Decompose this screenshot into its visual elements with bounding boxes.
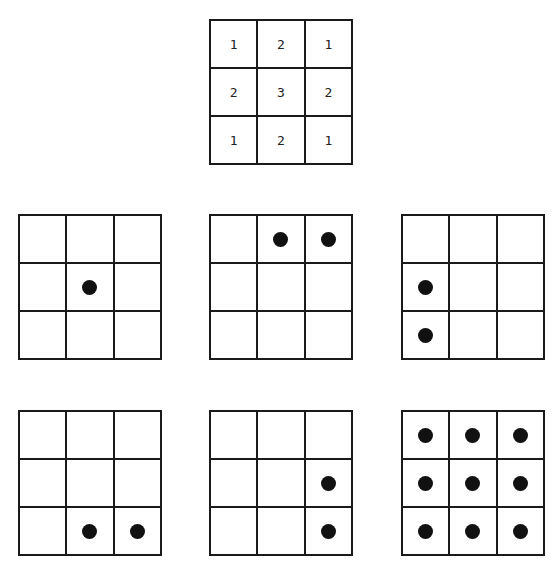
grid-cell [402, 507, 449, 555]
grid-cell [114, 215, 161, 263]
grid-cell [66, 215, 113, 263]
key-grid: 1 2 1 2 3 2 1 2 1 [209, 19, 353, 165]
grid-cell [402, 459, 449, 507]
dot-marker [418, 328, 433, 343]
grid-cell [305, 411, 352, 459]
grid-cell [402, 311, 449, 359]
grid-cell [66, 411, 113, 459]
grid-cell [66, 507, 113, 555]
grid-cell [449, 411, 496, 459]
dot-marker [130, 524, 145, 539]
grid-cell [449, 263, 496, 311]
grid-cell [19, 507, 66, 555]
key-cell: 1 [305, 116, 352, 164]
grid-cell [497, 411, 544, 459]
dot-marker [418, 524, 433, 539]
dot-marker [465, 524, 480, 539]
dot-marker [418, 428, 433, 443]
dot-marker [513, 476, 528, 491]
key-cell: 3 [257, 68, 304, 116]
pattern-grid-d [18, 410, 162, 556]
dot-marker [418, 476, 433, 491]
grid-cell [257, 507, 304, 555]
dot-marker [465, 476, 480, 491]
pattern-grid-c [401, 214, 545, 360]
grid-cell [257, 263, 304, 311]
grid-cell [210, 459, 257, 507]
dot-marker [321, 476, 336, 491]
grid-cell [210, 507, 257, 555]
grid-cell [114, 263, 161, 311]
key-cell: 2 [257, 20, 304, 68]
grid-cell [19, 215, 66, 263]
key-cell: 2 [210, 68, 257, 116]
grid-cell [449, 311, 496, 359]
grid-cell [114, 459, 161, 507]
dot-marker [513, 428, 528, 443]
grid-cell [497, 507, 544, 555]
grid-cell [449, 507, 496, 555]
grid-cell [305, 507, 352, 555]
grid-cell [114, 507, 161, 555]
pattern-grid-a [18, 214, 162, 360]
key-cell: 1 [210, 20, 257, 68]
grid-cell [497, 459, 544, 507]
grid-cell [305, 459, 352, 507]
grid-cell [19, 311, 66, 359]
grid-cell [402, 215, 449, 263]
grid-cell [305, 263, 352, 311]
grid-cell [210, 411, 257, 459]
grid-cell [497, 311, 544, 359]
dot-marker [82, 280, 97, 295]
pattern-grid-e [209, 410, 353, 556]
grid-cell [449, 459, 496, 507]
key-cell: 1 [305, 20, 352, 68]
grid-cell [114, 311, 161, 359]
grid-cell [210, 311, 257, 359]
grid-cell [497, 215, 544, 263]
grid-cell [210, 215, 257, 263]
grid-cell [19, 263, 66, 311]
grid-cell [210, 263, 257, 311]
grid-cell [305, 311, 352, 359]
grid-cell [449, 215, 496, 263]
dot-marker [513, 524, 528, 539]
grid-cell [66, 263, 113, 311]
key-cell: 2 [257, 116, 304, 164]
grid-cell [114, 411, 161, 459]
dot-marker [273, 232, 288, 247]
pattern-grid-b [209, 214, 353, 360]
grid-cell [257, 459, 304, 507]
grid-cell [402, 411, 449, 459]
grid-cell [402, 263, 449, 311]
grid-cell [257, 311, 304, 359]
key-cell: 2 [305, 68, 352, 116]
dot-marker [321, 524, 336, 539]
grid-cell [19, 411, 66, 459]
pattern-grid-f [401, 410, 545, 556]
grid-cell [257, 411, 304, 459]
grid-cell [19, 459, 66, 507]
dot-marker [418, 280, 433, 295]
grid-cell [66, 311, 113, 359]
grid-cell [497, 263, 544, 311]
grid-cell [66, 459, 113, 507]
dot-marker [465, 428, 480, 443]
grid-cell [305, 215, 352, 263]
key-cell: 1 [210, 116, 257, 164]
dot-marker [82, 524, 97, 539]
dot-marker [321, 232, 336, 247]
grid-cell [257, 215, 304, 263]
